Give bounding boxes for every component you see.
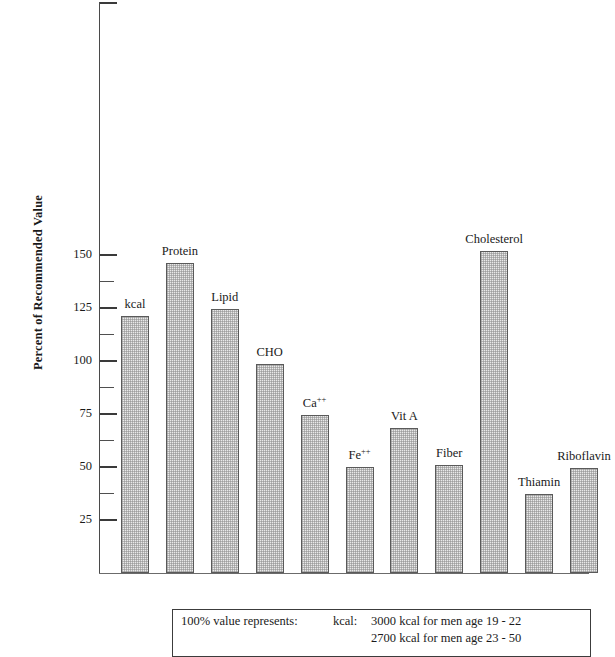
bar-fe- <box>346 467 374 573</box>
y-tick-label-150: 150 <box>48 247 92 262</box>
y-tick-label-25: 25 <box>48 512 92 527</box>
caption-key: kcal: <box>333 614 371 629</box>
bar-fiber <box>435 465 463 573</box>
y-tick-minor-87.5 <box>100 387 114 389</box>
caption-value-1: 3000 kcal for men age 19 - 22 <box>371 614 521 629</box>
y-tick-major-50 <box>100 466 117 468</box>
y-tick-major-150 <box>100 254 117 256</box>
bar-label-cholesterol: Cholesterol <box>434 232 554 247</box>
y-tick-major-75 <box>100 413 117 415</box>
y-tick-minor-37.5 <box>100 493 114 495</box>
x-axis-line <box>99 573 589 574</box>
y-tick-minor-112.5 <box>100 334 114 336</box>
bar-kcal <box>121 316 149 573</box>
caption-value-2: 2700 kcal for men age 23 - 50 <box>371 631 521 646</box>
y-tick-minor-137.5 <box>100 281 114 283</box>
bar-cholesterol <box>480 251 508 573</box>
caption-row-2: 2700 kcal for men age 23 - 50 <box>181 631 590 648</box>
y-tick-minor-62.5 <box>100 440 114 442</box>
y-axis-top-tick <box>100 2 117 4</box>
y-tick-major-25 <box>100 519 117 521</box>
caption-row-1: 100% value represents: kcal: 3000 kcal f… <box>181 614 590 631</box>
y-axis-title: Percent of Recommended Value <box>31 153 46 413</box>
bar-riboflavin <box>570 468 598 573</box>
y-tick-label-50: 50 <box>48 459 92 474</box>
y-tick-label-100: 100 <box>48 353 92 368</box>
y-tick-label-75: 75 <box>48 406 92 421</box>
y-axis-line <box>99 2 100 574</box>
bar-protein <box>166 263 194 573</box>
caption-lead: 100% value represents: <box>181 614 333 629</box>
bar-label-riboflavin: Riboflavin <box>524 449 615 464</box>
bar-ca- <box>301 415 329 573</box>
bar-label-protein: Protein <box>120 244 240 259</box>
bar-label-cho: CHO <box>210 345 330 360</box>
bar-label-vit-a: Vit A <box>344 409 464 424</box>
bar-thiamin <box>525 494 553 574</box>
caption-box: 100% value represents: kcal: 3000 kcal f… <box>172 609 591 657</box>
y-tick-major-100 <box>100 360 117 362</box>
bar-label-lipid: Lipid <box>165 290 285 305</box>
